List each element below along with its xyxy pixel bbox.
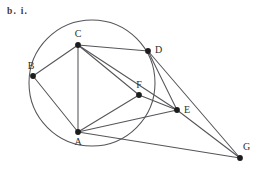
- vertex-layer: [30, 42, 243, 161]
- edge-F-A: [78, 95, 139, 132]
- edge-B-A: [33, 76, 78, 132]
- vertex-A: [75, 129, 81, 135]
- edge-B-C: [33, 45, 78, 76]
- vertex-label-E: E: [184, 104, 190, 115]
- vertex-F: [136, 92, 142, 98]
- vertex-D: [145, 48, 151, 54]
- vertex-label-G: G: [243, 141, 250, 152]
- vertex-label-layer: ABCDEFG: [28, 28, 251, 152]
- edge-C-F: [78, 45, 139, 95]
- vertex-C: [75, 42, 81, 48]
- edge-E-G: [177, 110, 240, 158]
- vertex-label-F: F: [136, 79, 142, 90]
- graph-diagram-svg: ABCDEFG: [0, 0, 258, 173]
- vertex-B: [30, 73, 36, 79]
- vertex-E: [174, 107, 180, 113]
- vertex-label-B: B: [28, 60, 35, 71]
- part-label: b. i.: [7, 6, 28, 16]
- vertex-G: [237, 155, 243, 161]
- geometry-figure: b. i. ABCDEFG: [0, 0, 258, 173]
- vertex-label-A: A: [74, 136, 82, 147]
- edge-layer: [33, 45, 240, 158]
- vertex-label-D: D: [155, 44, 162, 55]
- edge-C-D: [78, 45, 148, 51]
- edge-A-E: [78, 110, 177, 132]
- vertex-label-C: C: [75, 28, 82, 39]
